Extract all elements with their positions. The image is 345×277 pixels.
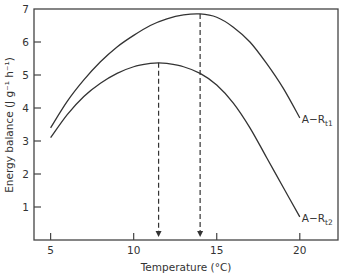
y-tick-label: 3 (22, 135, 29, 147)
curve-a-r-t2 (51, 63, 300, 217)
arrow-down-icon (197, 231, 203, 237)
data-curves (51, 14, 300, 217)
plot-frame (34, 9, 338, 240)
y-tick-label: 7 (22, 3, 29, 15)
series-label: A−Rt1 (302, 113, 333, 128)
x-axis-ticks: 5101520 (47, 233, 306, 256)
x-axis-label: Temperature (°C) (140, 261, 232, 273)
energy-balance-chart: 1234567 5101520 A−Rt1A−Rt2 Temperature (… (0, 0, 345, 277)
x-tick-label: 20 (293, 244, 306, 256)
y-tick-label: 1 (22, 201, 29, 213)
x-tick-label: 5 (47, 244, 54, 256)
optimum-markers (156, 14, 204, 237)
y-tick-label: 5 (22, 69, 29, 81)
series-labels: A−Rt1A−Rt2 (302, 113, 333, 227)
y-tick-label: 6 (22, 36, 29, 48)
y-tick-label: 2 (22, 168, 29, 180)
y-axis-label: Energy balance (J g⁻¹ h⁻¹) (3, 57, 15, 193)
curve-a-r-t1 (51, 14, 300, 128)
arrow-down-icon (156, 231, 162, 237)
x-tick-label: 10 (127, 244, 140, 256)
y-axis-ticks: 1234567 (22, 3, 41, 213)
x-tick-label: 15 (210, 244, 223, 256)
series-label: A−Rt2 (302, 212, 333, 227)
y-tick-label: 4 (22, 102, 29, 114)
